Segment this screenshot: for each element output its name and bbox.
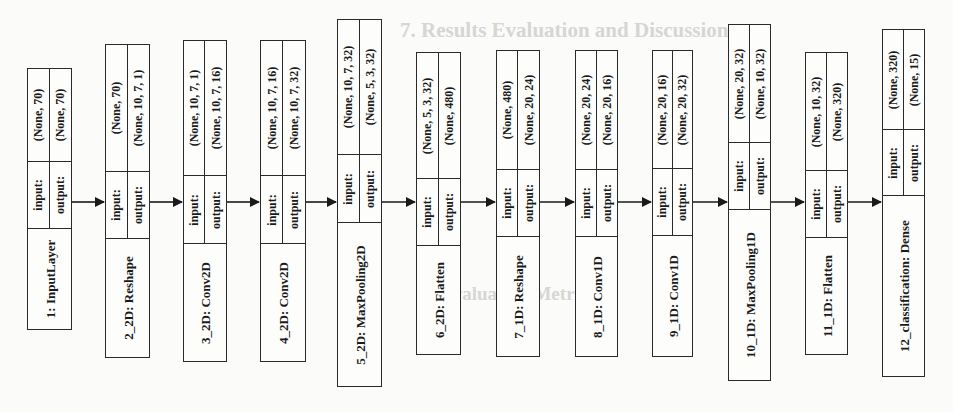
output-shape: (None, 20, 32)	[676, 74, 688, 145]
output-shape: (None, 20, 24)	[523, 75, 535, 146]
output-shape: (None, 5, 3, 32)	[364, 49, 376, 126]
output-label: output:	[443, 193, 455, 231]
output-label: output:	[210, 190, 222, 228]
layer-name: 10_1D: MaxPooling1D	[743, 232, 756, 358]
input-shape: (None, 20, 24)	[580, 75, 592, 146]
io-labels: input:output:	[261, 175, 305, 243]
input-shape: (None, 70)	[32, 89, 44, 142]
io-labels: input:output:	[883, 129, 924, 195]
layer-name: 1: InputLayer	[43, 240, 56, 318]
layer-name-cell: 6_2D: Flatten	[417, 245, 460, 354]
layer-name-cell: 10_1D: MaxPooling1D	[729, 209, 770, 380]
input-label: input:	[110, 189, 122, 220]
layer-name-cell: 8_1D: Conv1D	[576, 236, 617, 356]
layer-name-cell: 7_1D: Reshape	[497, 236, 539, 356]
shape-values: (None, 320)(None, 15)	[883, 30, 924, 129]
layer-name-cell: 9_1D: Conv1D	[653, 235, 692, 356]
shape-values: (None, 10, 32)(None, 320)	[806, 53, 847, 170]
input-label: input:	[342, 173, 354, 204]
layer-name: 7_1D: Reshape	[512, 255, 525, 338]
input-shape: (None, 10, 32)	[810, 76, 822, 147]
input-shape: (None, 320)	[887, 50, 899, 109]
input-shape: (None, 5, 3, 32)	[421, 77, 433, 154]
layer-name: 11_1D: Flatten	[820, 255, 833, 337]
io-labels: input:output:	[28, 161, 71, 228]
layer-node-10-1d-maxpooling1d: (None, 20, 32)(None, 10, 32)input:output…	[728, 24, 771, 381]
input-shape: (None, 10, 7, 1)	[188, 70, 200, 147]
io-labels: input:output:	[729, 142, 770, 209]
layer-node-12-classification-dense: (None, 320)(None, 15)input:output:12_cla…	[882, 29, 925, 377]
output-label: output:	[754, 157, 766, 195]
layer-name: 4_2D: Conv2D	[277, 262, 290, 344]
input-shape: (None, 10, 7, 16)	[266, 67, 278, 150]
model-architecture-diagram: (None, 70)(None, 70)input:output:1: Inpu…	[0, 0, 953, 412]
io-labels: input:output:	[338, 154, 381, 222]
shape-values: (None, 10, 7, 16)(None, 10, 7, 32)	[261, 41, 305, 175]
layer-name: 5_2D: MaxPooling2D	[353, 245, 366, 365]
shape-values: (None, 10, 7, 32)(None, 5, 3, 32)	[338, 20, 381, 154]
layer-name-cell: 3_2D: Conv2D	[184, 243, 226, 361]
layer-node-7-1d-reshape: (None, 480)(None, 20, 24)input:output:7_…	[496, 50, 540, 357]
layer-name: 6_2D: Flatten	[432, 262, 445, 338]
output-label: output:	[676, 183, 688, 221]
layer-node-2-2d-reshape: (None, 70)(None, 10, 7, 1)input:output:2…	[105, 44, 150, 358]
io-labels: input:output:	[806, 170, 847, 237]
layer-name: 12_classification: Dense	[897, 220, 910, 352]
layer-name: 9_1D: Conv1D	[666, 255, 679, 337]
layer-name: 3_2D: Conv2D	[199, 262, 212, 344]
output-label: output:	[288, 190, 300, 228]
layer-name-cell: 12_classification: Dense	[883, 195, 924, 376]
layer-node-8-1d-conv1d: (None, 20, 24)(None, 20, 16)input:output…	[575, 50, 618, 357]
io-labels: input:output:	[497, 169, 539, 236]
input-label: input:	[32, 179, 44, 210]
input-label: input:	[656, 186, 668, 217]
output-label: output:	[364, 169, 376, 207]
input-label: input:	[421, 196, 433, 227]
io-labels: input:output:	[184, 175, 226, 243]
layer-name: 2_2D: Reshape	[121, 256, 134, 339]
layer-node-9-1d-conv1d: (None, 20, 16)(None, 20, 32)input:output…	[652, 50, 693, 357]
input-label: input:	[501, 187, 513, 218]
io-labels: input:output:	[417, 178, 460, 245]
layer-node-11-1d-flatten: (None, 10, 32)(None, 320)input:output:11…	[805, 52, 848, 355]
output-shape: (None, 10, 7, 32)	[288, 67, 300, 150]
layer-name: 8_1D: Conv1D	[590, 256, 603, 338]
input-shape: (None, 10, 7, 32)	[342, 46, 354, 129]
input-label: input:	[266, 194, 278, 225]
output-shape: (None, 10, 32)	[754, 48, 766, 119]
shape-values: (None, 5, 3, 32)(None, 480)	[417, 53, 460, 178]
input-shape: (None, 20, 32)	[733, 48, 745, 119]
output-shape: (None, 320)	[831, 82, 843, 141]
shape-values: (None, 70)(None, 10, 7, 1)	[106, 45, 149, 171]
input-label: input:	[188, 194, 200, 225]
layer-name-cell: 11_1D: Flatten	[806, 237, 847, 354]
output-label: output:	[132, 186, 144, 224]
layer-node-1-inputlayer: (None, 70)(None, 70)input:output:1: Inpu…	[27, 68, 72, 330]
output-shape: (None, 10, 7, 16)	[210, 67, 222, 150]
output-label: output:	[831, 185, 843, 223]
layer-name-cell: 4_2D: Conv2D	[261, 243, 305, 361]
output-shape: (None, 10, 7, 1)	[132, 70, 144, 147]
layer-node-5-2d-maxpooling2d: (None, 10, 7, 32)(None, 5, 3, 32)input:o…	[337, 19, 382, 387]
input-shape: (None, 20, 16)	[656, 74, 668, 145]
input-label: input:	[733, 160, 745, 191]
shape-values: (None, 20, 16)(None, 20, 32)	[653, 51, 692, 168]
input-shape: (None, 70)	[110, 82, 122, 135]
output-label: output:	[601, 184, 613, 222]
output-shape: (None, 480)	[443, 86, 455, 145]
io-labels: input:output:	[106, 171, 149, 238]
layer-node-4-2d-conv2d: (None, 10, 7, 16)(None, 10, 7, 32)input:…	[260, 40, 306, 362]
input-label: input:	[887, 147, 899, 178]
shape-values: (None, 20, 32)(None, 10, 32)	[729, 25, 770, 142]
output-label: output:	[54, 176, 66, 214]
input-shape: (None, 480)	[501, 81, 513, 140]
input-label: input:	[580, 187, 592, 218]
layer-name-cell: 1: InputLayer	[28, 228, 71, 329]
io-labels: input:output:	[653, 168, 692, 235]
input-label: input:	[810, 188, 822, 219]
output-shape: (None, 20, 16)	[601, 75, 613, 146]
output-label: output:	[908, 143, 920, 181]
output-label: output:	[523, 184, 535, 222]
io-labels: input:output:	[576, 169, 617, 236]
layer-node-6-2d-flatten: (None, 5, 3, 32)(None, 480)input:output:…	[416, 52, 461, 355]
